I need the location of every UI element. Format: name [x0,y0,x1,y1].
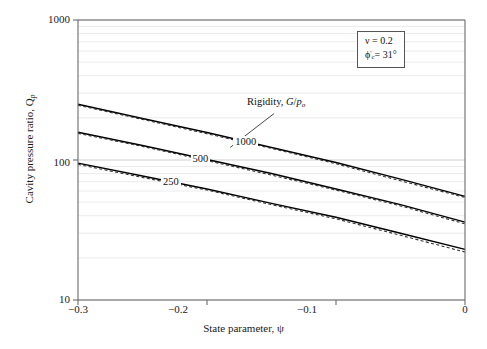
parameter-annotation-box: ν = 0.2 ϕ'c= 31° [357,31,405,68]
x-tick-label-neg03: −0.3 [48,303,108,315]
x-axis-title-text: State parameter, ψ [203,322,284,334]
rigidity-annotation-prefix: Rigidity, [247,96,286,107]
y-tick-label-100: 100 [10,156,70,168]
x-tick-label-neg02: −0.2 [148,303,208,315]
gridlines-group [78,20,465,300]
y-axis-title-subscript: p [28,95,37,99]
curve-label-500: 500 [191,153,211,164]
param-phi-value: = 31° [375,49,397,60]
param-nu-line: ν = 0.2 [365,35,397,47]
param-phi-line: ϕ'c= 31° [365,47,397,63]
curve-label-250: 250 [161,176,181,187]
rigidity-subscript: o [302,101,306,109]
y-tick-label-1000: 1000 [10,13,70,25]
x-tick-label-neg01: −0.1 [277,303,337,315]
y-axis-title-prefix: Cavity pressure ratio, Q [23,98,35,203]
cavity-pressure-ratio-chart [0,0,487,349]
y-axis-title: Cavity pressure ratio, Qp [19,59,37,239]
chart-figure: Cavity pressure ratio, Qp State paramete… [0,0,487,349]
rigidity-symbol-g: G [286,96,294,107]
x-tick-label-zero: 0 [435,303,487,315]
y-axis-title-text: Cavity pressure ratio, Qp [23,95,35,204]
curve-label-1000: 1000 [233,136,258,147]
rigidity-annotation: Rigidity, G/po [247,96,305,109]
x-axis-title: State parameter, ψ [0,322,487,334]
